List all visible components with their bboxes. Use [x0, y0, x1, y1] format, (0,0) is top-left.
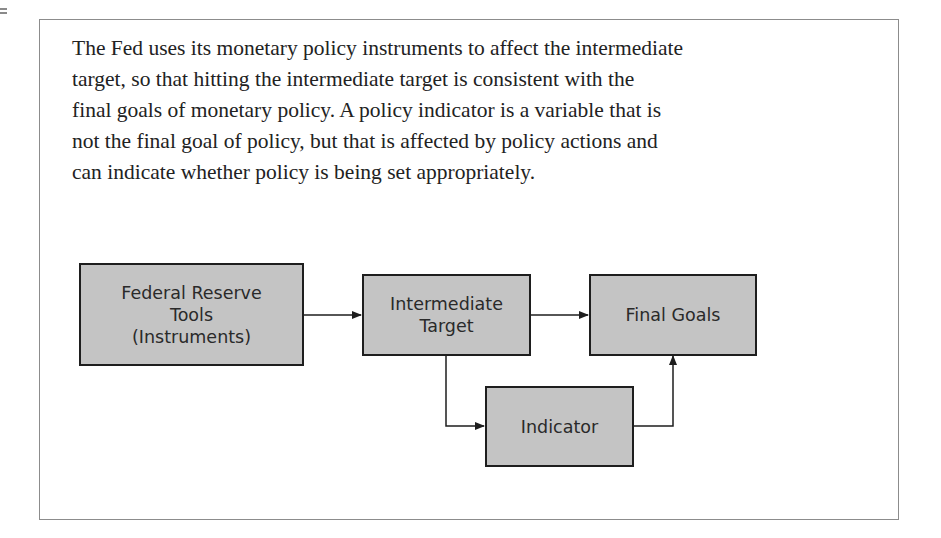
arrow-intermediate-to-indicator — [446, 356, 484, 426]
node-indicator: Indicator — [485, 386, 634, 467]
node-intermediate-target: Intermediate Target — [362, 274, 531, 356]
arrow-indicator-to-final — [634, 356, 673, 426]
node-final-goals: Final Goals — [589, 274, 757, 356]
node-federal-reserve-tools: Federal Reserve Tools (Instruments) — [79, 263, 304, 366]
